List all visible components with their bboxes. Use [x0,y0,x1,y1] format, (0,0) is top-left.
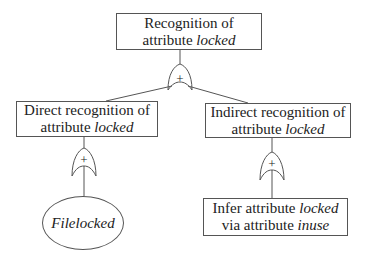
italic-term: locked [94,119,133,135]
node-root: Recognition of attribute locked [116,13,262,50]
node-filelocked: Filelocked [42,196,124,250]
italic-term: locked [196,32,235,48]
node-direct-line1: Direct recognition of [24,102,150,119]
node-infer-line2: via attribute inuse [222,217,329,234]
text: attribute [232,121,286,137]
node-direct-line2: attribute locked [41,119,134,136]
text: attribute [143,32,197,48]
node-infer: Infer attribute locked via attribute inu… [203,198,348,236]
text: attribute [41,119,95,135]
node-indirect: Indirect recognition of attribute locked [205,103,351,138]
italic-term: locked [285,121,324,137]
text: via attribute [222,217,298,233]
node-indirect-line2: attribute locked [232,121,325,138]
filelocked-label: Filelocked [51,215,114,232]
gate-plus-label: + [80,152,87,167]
gate-plus-label: + [176,71,183,86]
text: Infer attribute [213,200,300,216]
node-root-line1: Recognition of [144,15,234,32]
italic-term: locked [299,200,338,216]
node-infer-line1: Infer attribute locked [213,200,339,217]
gate-plus-label: + [268,156,275,171]
italic-term: inuse [298,217,330,233]
node-root-line2: attribute locked [143,32,236,49]
node-direct: Direct recognition of attribute locked [16,101,158,137]
node-indirect-line1: Indirect recognition of [211,104,346,121]
